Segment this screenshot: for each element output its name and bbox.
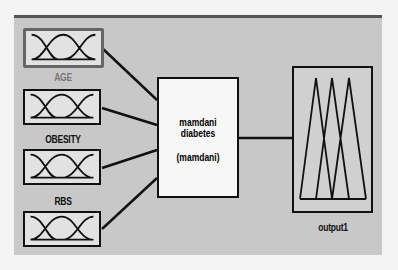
fis-system-box[interactable]: mamdani diabetes (mamdani) xyxy=(157,77,239,198)
membership-function-curves-icon xyxy=(25,91,99,123)
membership-function-curves-icon xyxy=(26,31,101,65)
input-label-obesity: OBESITY xyxy=(42,134,85,145)
triangular-membership-functions-icon xyxy=(294,68,371,211)
input-mf-box-age[interactable] xyxy=(23,28,104,68)
fis-system-type: (mamdani) xyxy=(165,152,231,163)
input-label-rbs: RBS xyxy=(46,196,80,207)
output-mf-box[interactable] xyxy=(292,66,373,213)
input-mf-box-obesity[interactable] xyxy=(23,89,101,125)
fis-system-name: mamdani diabetes xyxy=(165,117,231,139)
membership-function-curves-icon xyxy=(25,213,99,245)
input-label-age: AGE xyxy=(46,72,80,83)
output-label: output1 xyxy=(312,222,355,233)
membership-function-curves-icon xyxy=(25,151,99,183)
input-mf-box-4[interactable] xyxy=(23,211,101,247)
input-mf-box-rbs[interactable] xyxy=(23,149,101,185)
